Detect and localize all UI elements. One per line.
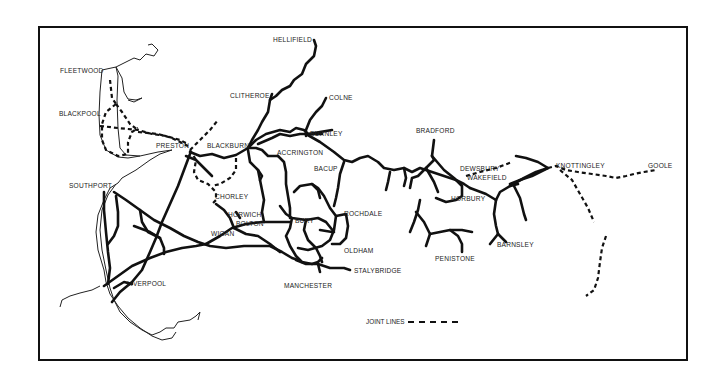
label-bradford: BRADFORD [416,128,455,135]
joint-lines [100,80,656,296]
label-clitheroe: CLITHEROE [230,93,270,100]
label-knottingley: KNOTTINGLEY [556,163,605,170]
label-accrington: ACCRINGTON [277,150,323,157]
label-penistone: PENISTONE [435,256,475,263]
coastline [60,44,200,340]
label-dewsbury: DEWSBURY [460,166,500,173]
label-horbury: HORBURY [451,196,485,203]
label-southport: SOUTHPORT [69,183,112,190]
map-legend: JOINT LINES [366,318,458,325]
label-preston: PRESTON [156,143,189,150]
label-liverpool: LIVERPOOL [127,281,166,288]
legend-dashed-line-symbol [408,321,458,323]
label-goole: GOOLE [648,163,672,170]
label-blackburn: BLACKBURN [207,143,249,150]
legend-joint-lines-label: JOINT LINES [366,318,405,325]
label-colne: COLNE [329,95,353,102]
label-rochdale: ROCHDALE [344,211,382,218]
label-fleetwood: FLEETWOOD [60,68,104,75]
label-chorley: CHORLEY [215,194,248,201]
label-wakefield: WAKEFIELD [467,175,507,182]
label-barnsley: BARNSLEY [497,242,534,249]
label-bacup: BACUP [314,166,338,173]
label-bury: BURY [295,218,314,225]
label-horwich: HORWICH [228,212,262,219]
label-oldham: OLDHAM [344,248,373,255]
label-bolton: BOLTON [236,221,264,228]
label-burnley: BURNLEY [310,131,343,138]
label-manchester: MANCHESTER [284,283,332,290]
label-blackpool: BLACKPOOL [59,111,101,118]
label-stalybridge: STALYBRIDGE [354,268,401,275]
label-wigan: WIGAN [211,231,234,238]
label-hellifield: HELLIFIELD [273,37,312,44]
